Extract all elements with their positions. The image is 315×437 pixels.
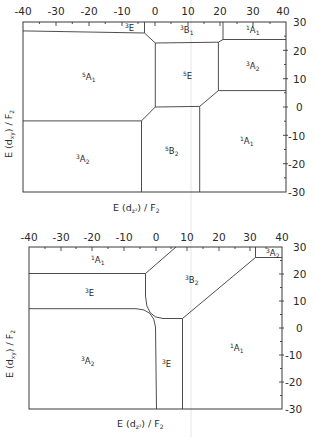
- top-x-ticks: [39, 22, 270, 26]
- boundary-line: [23, 31, 145, 33]
- y-tick-label: 10: [293, 295, 306, 307]
- figure: -40 -30 -20 -10 0 10 20 30 40 30 20 10 0…: [0, 0, 315, 437]
- x-tick-label: -10: [113, 5, 130, 17]
- y-tick-label: 0: [296, 322, 303, 334]
- region-label-1A1: 1A1: [246, 24, 260, 36]
- region-label-3E: 3E: [85, 287, 94, 298]
- top-y-tick-labels: 30 20 10 0 -10 -20 -30: [288, 16, 306, 198]
- x-tick-label: 40: [276, 5, 289, 17]
- x-tick-label: -30: [52, 231, 69, 243]
- x-tick-label: -20: [83, 231, 100, 243]
- top-x-tick-labels: -40 -30 -20 -10 0 10 20 30 40: [14, 5, 289, 17]
- x-tick-label: -20: [80, 5, 97, 17]
- bottom-panel: -40 -30 -20 -10 0 10 20 30 40 30 20 10 0…: [4, 231, 306, 430]
- top-x-axis-title: E (dz²) / F2: [113, 202, 160, 214]
- region-label-3E: 3E: [125, 22, 134, 33]
- y-tick-label: 30: [293, 16, 306, 28]
- x-tick-label: -10: [115, 231, 132, 243]
- top-panel: -40 -30 -20 -10 0 10 20 30 40 30 20 10 0…: [3, 5, 306, 214]
- y-tick-label: 0: [296, 101, 303, 113]
- bottom-y-axis-title: E (dxy) / F2: [4, 330, 17, 378]
- y-tick-label: -20: [288, 158, 305, 170]
- bottom-region-labels: 1A1 3E 3B2 3A2 3A2 3E 1A1: [81, 247, 280, 369]
- y-tick-label: -20: [285, 376, 302, 388]
- bottom-x-axis-title: E (dz²) / F2: [117, 418, 164, 430]
- y-tick-label: -30: [288, 186, 305, 198]
- bottom-x-tick-labels: -40 -30 -20 -10 0 10 20 30 40: [20, 231, 288, 243]
- x-tick-label: 40: [275, 231, 288, 243]
- x-tick-label: 0: [152, 5, 159, 17]
- y-tick-label: 30: [293, 241, 306, 253]
- x-tick-label: 10: [180, 231, 193, 243]
- x-tick-label: 20: [212, 231, 225, 243]
- boundary-line: [23, 107, 155, 121]
- x-tick-label: -40: [20, 231, 37, 243]
- region-label-3A2: 3A2: [76, 153, 90, 165]
- y-tick-label: 20: [293, 268, 306, 280]
- x-tick-label: 20: [213, 5, 226, 17]
- x-tick-label: 30: [246, 5, 259, 17]
- y-tick-label: -30: [285, 403, 302, 415]
- boundary-line: [146, 274, 183, 319]
- region-label-1A1: 1A1: [240, 135, 254, 147]
- bottom-x-ticks: [45, 247, 266, 251]
- y-tick-label: -10: [285, 349, 302, 361]
- top-plot-frame: [23, 22, 286, 192]
- region-label-3A2: 3A2: [246, 60, 260, 72]
- region-label-5E: 5E: [183, 70, 192, 81]
- top-boundaries: [23, 22, 286, 192]
- bottom-y-tick-labels: 30 20 10 0 -10 -20 -30: [285, 241, 306, 415]
- y-tick-label: 20: [293, 45, 306, 57]
- x-tick-label: 30: [243, 231, 256, 243]
- boundary-line: [155, 91, 218, 107]
- x-tick-label: -40: [14, 5, 31, 17]
- boundary-line: [145, 22, 287, 43]
- region-label-3B2: 3B2: [185, 274, 199, 286]
- region-label-5A1: 5A1: [82, 71, 96, 83]
- top-y-axis-title: E (dxy) / F2: [3, 110, 16, 158]
- boundary-line: [183, 258, 283, 319]
- region-label-5B2: 5B2: [165, 145, 179, 157]
- region-label-3B1: 3B1: [180, 24, 194, 36]
- top-region-labels: 3E 3B1 1A1 5A1 5E 3A2 3A2 5B2 1A1: [76, 22, 260, 165]
- y-tick-label: -10: [288, 130, 305, 142]
- x-tick-label: -30: [47, 5, 64, 17]
- boundary-line: [29, 309, 157, 409]
- x-tick-label: 0: [153, 231, 160, 243]
- region-label-1A1: 1A1: [230, 342, 244, 354]
- y-tick-label: 10: [293, 73, 306, 85]
- x-tick-label: 10: [181, 5, 194, 17]
- region-label-3A2: 3A2: [81, 355, 95, 367]
- bottom-boundaries: [29, 247, 282, 409]
- region-label-1A1: 1A1: [91, 254, 105, 266]
- region-label-3E: 3E: [162, 358, 171, 369]
